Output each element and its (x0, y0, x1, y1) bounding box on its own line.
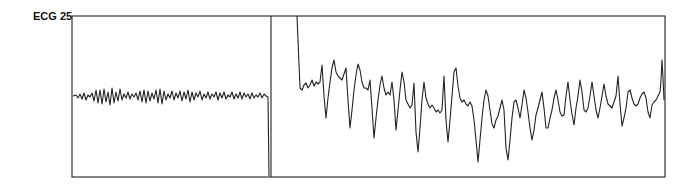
ecg-traces (73, 16, 664, 176)
ecg-trace-segment-2-wide-complex (297, 16, 664, 162)
ecg-trace-segment-1-low-amplitude (73, 88, 269, 176)
ecg-plot (0, 0, 697, 187)
